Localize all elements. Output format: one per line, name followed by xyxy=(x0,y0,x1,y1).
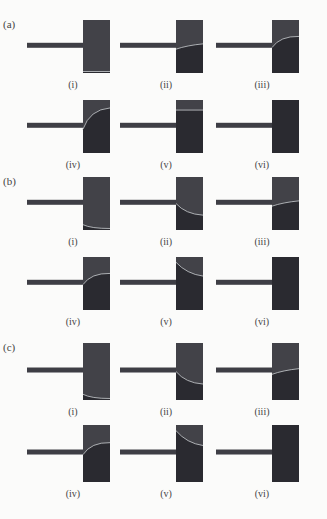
reservoir-block xyxy=(83,177,110,230)
panel-label: (ii) xyxy=(146,236,186,247)
simulation-panel xyxy=(27,425,110,482)
panel-label: (ii) xyxy=(146,406,186,417)
simulation-panel xyxy=(216,100,299,153)
simulation-panel xyxy=(216,20,299,73)
simulation-panel xyxy=(120,257,203,310)
channel-bar xyxy=(27,368,84,373)
simulation-panel xyxy=(216,177,299,230)
simulation-panel xyxy=(27,343,110,400)
simulation-panel xyxy=(216,343,299,400)
simulation-panel xyxy=(27,257,110,310)
panel-label: (iii) xyxy=(242,236,282,247)
channel-bar xyxy=(120,200,177,205)
reservoir-block xyxy=(272,257,299,310)
channel-bar xyxy=(27,123,84,128)
channel-bar xyxy=(216,450,273,455)
panel-label: (vi) xyxy=(242,488,282,499)
reservoir-block xyxy=(272,425,299,482)
channel-bar xyxy=(216,200,273,205)
channel-bar xyxy=(216,368,273,373)
channel-bar xyxy=(27,200,84,205)
channel-bar xyxy=(27,450,84,455)
channel-bar xyxy=(120,43,177,48)
simulation-panel xyxy=(120,177,203,230)
reservoir-block xyxy=(272,100,299,153)
section-label: (c) xyxy=(3,341,15,353)
reservoir-block xyxy=(83,20,110,73)
panel-label: (iii) xyxy=(242,79,282,90)
simulation-panel xyxy=(27,20,110,73)
simulation-panel xyxy=(120,20,203,73)
channel-bar xyxy=(120,368,177,373)
channel-bar xyxy=(120,280,177,285)
simulation-panel xyxy=(120,425,203,482)
panel-label: (iv) xyxy=(53,316,93,327)
lower-phase-region xyxy=(176,110,203,153)
panel-label: (iv) xyxy=(53,159,93,170)
simulation-panel xyxy=(120,100,203,153)
panel-label: (ii) xyxy=(146,79,186,90)
simulation-panel xyxy=(120,343,203,400)
panel-label: (vi) xyxy=(242,159,282,170)
simulation-panel xyxy=(27,100,110,153)
channel-bar xyxy=(120,123,177,128)
simulation-panel xyxy=(216,425,299,482)
channel-bar xyxy=(27,43,84,48)
channel-bar xyxy=(216,123,273,128)
section-label: (a) xyxy=(3,18,15,30)
panel-label: (v) xyxy=(146,159,186,170)
simulation-panel xyxy=(27,177,110,230)
channel-bar xyxy=(216,43,273,48)
panel-label: (v) xyxy=(146,488,186,499)
reservoir-block xyxy=(83,343,110,400)
channel-bar xyxy=(27,280,84,285)
panel-label: (v) xyxy=(146,316,186,327)
panel-label: (vi) xyxy=(242,316,282,327)
panel-label: (i) xyxy=(53,79,93,90)
channel-bar xyxy=(216,280,273,285)
section-label: (b) xyxy=(3,175,16,187)
panel-label: (i) xyxy=(53,406,93,417)
panel-label: (iv) xyxy=(53,488,93,499)
panel-label: (iii) xyxy=(242,406,282,417)
channel-bar xyxy=(120,450,177,455)
simulation-panel xyxy=(216,257,299,310)
panel-label: (i) xyxy=(53,236,93,247)
